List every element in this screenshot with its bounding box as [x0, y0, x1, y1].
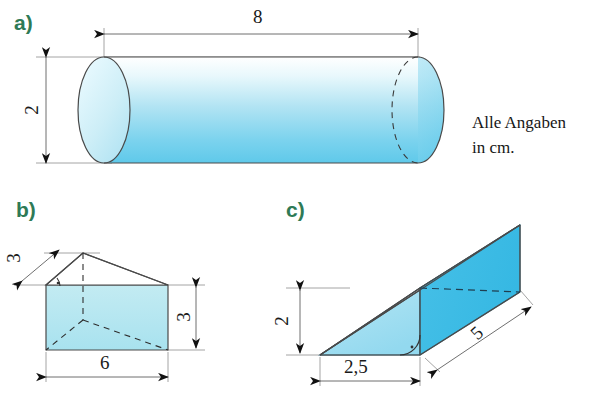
figure-c-triangular-wedge: [286, 225, 533, 386]
figure-sheet: a) b) c) 8 2 3 3 6 2 2,5 5 Alle Angaben …: [0, 0, 610, 396]
geometry-figure-canvas: [0, 0, 610, 396]
right-angle-dot-c: [411, 346, 414, 349]
dimension-b-slant: [22, 250, 59, 281]
dim-a-length-value: 8: [253, 6, 263, 28]
dim-c-height-value: 2: [271, 311, 293, 331]
figure-a-cylinder: [36, 28, 444, 163]
part-label-b: b): [16, 198, 36, 222]
prism-b-front-face: [46, 285, 168, 350]
cylinder-body: [78, 57, 444, 163]
dim-b-base-value: 6: [100, 352, 110, 374]
unit-note-line-2: in cm.: [472, 137, 515, 160]
cylinder-right-cap: [418, 57, 444, 163]
unit-note-line-1: Alle Angaben: [472, 112, 566, 135]
dim-b-height-value: 3: [173, 307, 195, 327]
part-label-c: c): [286, 198, 305, 222]
dim-a-diameter-value: 2: [21, 100, 43, 120]
part-label-a: a): [14, 11, 33, 35]
dim-b-slant-value: 3: [3, 248, 25, 268]
cylinder-left-cap: [78, 57, 130, 163]
right-angle-dot-b: [57, 282, 60, 285]
dim-c-depth-value: 2,5: [344, 356, 368, 378]
